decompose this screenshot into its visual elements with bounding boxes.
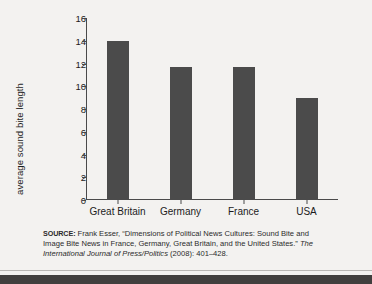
y-tick-mark bbox=[82, 109, 86, 110]
x-tick-label: USA bbox=[296, 206, 317, 217]
x-tick-label: France bbox=[228, 206, 259, 217]
y-tick-mark bbox=[82, 200, 86, 201]
source-line3-start: States.” bbox=[272, 239, 300, 248]
y-tick-mark bbox=[82, 86, 86, 87]
x-tick-label: Great Britain bbox=[89, 206, 145, 217]
bar bbox=[170, 67, 192, 200]
plot-area: 0246810121416 Great BritainGermanyFrance… bbox=[86, 18, 338, 200]
bar bbox=[296, 98, 318, 200]
y-axis-label: average sound bite length bbox=[14, 64, 25, 214]
x-tick-mark bbox=[117, 200, 118, 204]
bar-chart: average sound bite length 0246810121416 … bbox=[48, 14, 338, 214]
source-line3-end: (2008): 401–428. bbox=[168, 249, 228, 258]
bottom-divider bbox=[0, 270, 372, 271]
bar bbox=[107, 41, 129, 200]
source-note: SOURCE: Frank Esser, “Dimensions of Poli… bbox=[43, 229, 331, 260]
y-tick-mark bbox=[82, 177, 86, 178]
y-tick-mark bbox=[82, 155, 86, 156]
y-tick-mark bbox=[82, 41, 86, 42]
figure-container: average sound bite length 0246810121416 … bbox=[0, 0, 372, 284]
x-tick-label: Germany bbox=[160, 206, 201, 217]
x-tick-mark bbox=[180, 200, 181, 204]
y-tick-mark bbox=[82, 64, 86, 65]
y-tick-mark bbox=[82, 18, 86, 19]
y-axis-spine bbox=[86, 18, 87, 200]
source-label: SOURCE: bbox=[43, 229, 75, 238]
source-line1: Frank Esser, “Dimensions of Political Ne… bbox=[75, 229, 294, 238]
x-tick-mark bbox=[243, 200, 244, 204]
bottom-band bbox=[0, 275, 372, 284]
bar bbox=[233, 67, 255, 200]
y-tick-mark bbox=[82, 132, 86, 133]
x-tick-mark bbox=[306, 200, 307, 204]
